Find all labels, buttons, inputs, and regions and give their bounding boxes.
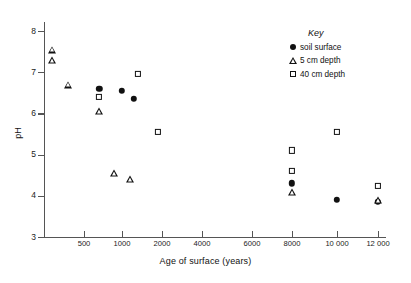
data-point [374,196,382,203]
legend: Key soil surface5 cm depth40 cm depth [286,28,404,82]
y-tick-label-wrap: 4 [0,191,36,200]
legend-marker [286,44,300,50]
x-tick [292,231,293,237]
legend-marker [286,71,300,77]
data-point [95,108,103,115]
data-point [126,176,134,183]
marker-open-triangle [48,46,56,53]
legend-entry: soil surface [286,41,404,53]
x-tick [378,231,379,237]
y-tick-label-wrap: 7 [0,68,36,77]
marker-open-square [375,182,381,188]
marker-open-triangle [374,196,382,203]
x-tick-label: 4000 [194,240,211,248]
marker-open-triangle [288,188,296,195]
marker-filled-circle [119,88,125,94]
data-point [48,46,56,53]
legend-label: soil surface [300,43,341,52]
marker-open-triangle [95,108,103,115]
marker-filled-circle [290,44,296,50]
data-point [289,180,295,186]
x-tick [84,231,85,237]
marker-open-triangle [48,56,56,63]
x-tick-label: 8000 [284,240,301,248]
y-tick-label: 3 [6,233,36,242]
data-point [64,81,72,88]
y-axis-title: pH [13,113,23,153]
y-tick-label-wrap: 8 [0,27,36,36]
data-point [96,85,102,91]
legend-label: 5 cm depth [300,56,341,65]
marker-open-square [290,71,296,77]
marker-open-triangle [289,57,297,64]
legend-entry: 5 cm depth [286,55,404,67]
data-point [375,182,381,188]
x-tick [122,231,123,237]
legend-entries: soil surface5 cm depth40 cm depth [286,41,404,80]
x-tick-label: 500 [78,240,91,248]
data-point [96,94,102,100]
marker-open-square [289,147,295,153]
x-tick-label: 12 000 [366,240,389,248]
marker-open-triangle [110,170,118,177]
x-tick-label: 1000 [114,240,131,248]
y-tick-label: 4 [6,191,36,200]
marker-open-square [135,71,141,77]
data-point [131,96,137,102]
marker-open-triangle [126,176,134,183]
x-tick-label: 10 000 [325,240,348,248]
marker-open-square [96,94,102,100]
x-tick [162,231,163,237]
y-tick-label-wrap: 3 [0,233,36,242]
legend-entry: 40 cm depth [286,68,404,80]
data-point [135,71,141,77]
data-point [155,129,161,135]
y-tick [38,113,44,114]
y-tick [38,72,44,73]
y-tick [38,196,44,197]
marker-filled-circle [131,96,137,102]
x-tick [202,231,203,237]
marker-open-triangle [64,81,72,88]
legend-label: 40 cm depth [300,70,345,79]
data-point [334,197,340,203]
legend-title: Key [286,28,404,38]
y-tick [38,31,44,32]
legend-marker [286,57,300,64]
marker-filled-circle [96,85,102,91]
x-tick-label: 2000 [154,240,171,248]
y-tick-label: 7 [6,68,36,77]
x-tick [337,231,338,237]
x-tick [252,231,253,237]
data-point [110,170,118,177]
data-point [289,147,295,153]
marker-open-square [155,129,161,135]
y-axis-line [44,22,45,238]
marker-open-square [289,168,295,174]
data-point [48,56,56,63]
data-point [289,168,295,174]
y-tick [38,237,44,238]
data-point [119,88,125,94]
marker-open-square [334,129,340,135]
data-point [288,188,296,195]
marker-filled-circle [289,180,295,186]
marker-filled-circle [334,197,340,203]
chart-canvas: 345678 5001000200040006000800010 00012 0… [0,0,411,283]
y-tick-label: 8 [6,27,36,36]
x-axis-title: Age of surface (years) [0,256,411,266]
data-point [334,129,340,135]
y-tick [38,155,44,156]
x-tick-label: 6000 [244,240,261,248]
